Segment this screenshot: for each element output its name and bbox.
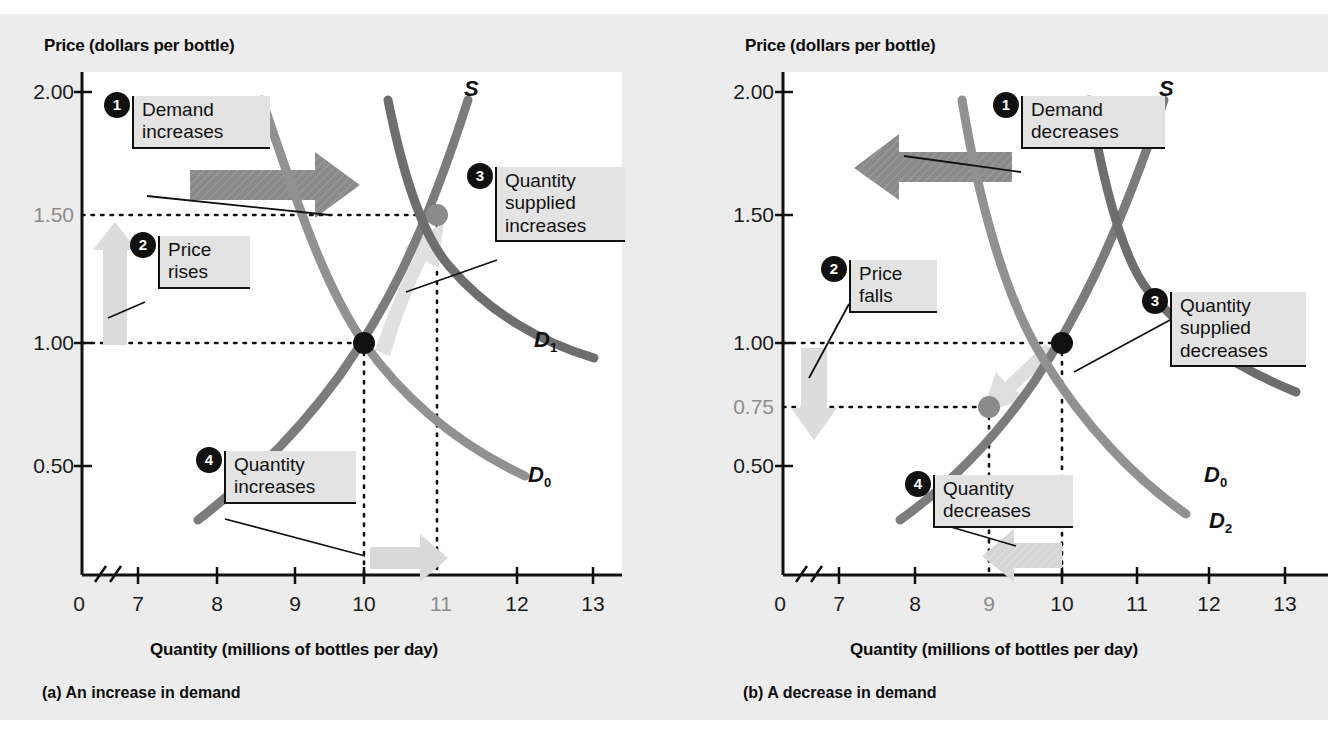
callout-note-b-2: Price falls: [849, 260, 937, 313]
curve-label-a-d1: D1: [534, 327, 557, 355]
chart-svg-a: [0, 0, 664, 736]
leader-line-a-4: [225, 519, 365, 556]
price-falls-arrow-b: [791, 348, 837, 440]
callout-bubble-b-3: 3: [1142, 288, 1168, 314]
callout-note-b-4: Quantity decreases: [933, 475, 1073, 528]
curve-label-b-d0-sub: 0: [1220, 475, 1227, 490]
panel-a: Price (dollars per bottle) Quantity (mil…: [0, 0, 664, 736]
callout-bubble-b-4: 4: [905, 471, 931, 497]
leader-line-b-2: [809, 304, 849, 378]
curve-label-b-d0-text: D: [1204, 462, 1220, 487]
curve-label-a-d1-text: D: [534, 327, 550, 352]
curve-label-a-s-text: S: [464, 76, 479, 101]
callout-bubble-a-3: 3: [467, 163, 493, 189]
figure-root: Price (dollars per bottle) Quantity (mil…: [0, 0, 1328, 736]
equilibrium-original-a: [353, 332, 375, 354]
callout-bubble-b-1: 1: [993, 92, 1019, 118]
curve-label-b-d0: D0: [1204, 462, 1227, 490]
curve-label-b-d2-sub: 2: [1225, 521, 1232, 536]
curve-label-a-d1-sub: 1: [550, 340, 557, 355]
callout-bubble-a-4: 4: [196, 447, 222, 473]
curve-label-b-d2: D2: [1209, 508, 1232, 536]
curve-label-a-d0-sub: 0: [544, 475, 551, 490]
callout-note-a-4: Quantity increases: [224, 451, 356, 504]
equilibrium-original-b: [1051, 332, 1073, 354]
callout-note-a-2: Price rises: [158, 236, 250, 289]
curve-label-a-s: S: [464, 76, 479, 102]
panel-b: Price (dollars per bottle) Quantity (mil…: [664, 0, 1328, 736]
callout-bubble-a-2: 2: [130, 232, 156, 258]
demand-increases-arrow-a: [190, 152, 360, 218]
callout-note-a-1: Demand increases: [132, 96, 270, 149]
equilibrium-new-a: [426, 204, 448, 226]
callout-note-a-3: Quantity supplied increases: [495, 167, 625, 242]
curve-label-a-d0-text: D: [528, 462, 544, 487]
callout-note-b-1: Demand decreases: [1021, 96, 1165, 149]
leader-line-b-3: [1074, 320, 1170, 372]
callout-note-b-3: Quantity supplied decreases: [1170, 292, 1306, 367]
curve-label-b-d2-text: D: [1209, 508, 1225, 533]
curve-label-a-d0: D0: [528, 462, 551, 490]
callout-bubble-a-1: 1: [104, 92, 130, 118]
equilibrium-new-b: [978, 396, 1000, 418]
callout-bubble-b-2: 2: [821, 256, 847, 282]
